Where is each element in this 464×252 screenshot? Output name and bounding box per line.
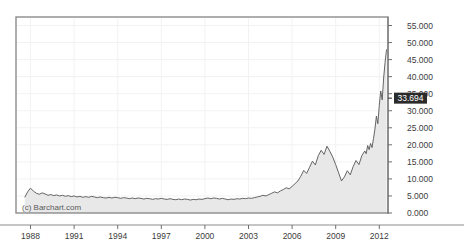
- y-axis-tick-label: 45.000: [407, 55, 433, 65]
- y-axis: 0.0005.00010.00015.00020.00025.00030.000…: [388, 17, 433, 218]
- y-axis-tick-label: 5.000: [407, 191, 429, 201]
- x-axis-tick-label: 1994: [108, 231, 127, 241]
- x-axis-tick-label: 2012: [370, 231, 389, 241]
- last-value-flag: 33.694: [388, 93, 427, 104]
- x-axis: 198819911994199720002003200620092012: [0, 225, 464, 241]
- y-axis-tick-label: 10.000: [407, 174, 433, 184]
- y-axis-tick-label: 25.000: [407, 123, 433, 133]
- y-axis-tick-label: 55.000: [407, 21, 433, 31]
- last-value-flag-label: 33.694: [398, 93, 424, 103]
- x-axis-tick-label: 1997: [152, 231, 171, 241]
- x-axis-tick-label: 1988: [21, 231, 40, 241]
- x-axis-tick-label: 2003: [239, 231, 258, 241]
- x-axis-tick-label: 2006: [283, 231, 302, 241]
- y-axis-tick-label: 20.000: [407, 140, 433, 150]
- x-axis-tick-label: 2000: [195, 231, 214, 241]
- price-area-fill: [25, 49, 387, 213]
- y-axis-tick-label: 30.000: [407, 106, 433, 116]
- y-axis-tick-label: 15.000: [407, 157, 433, 167]
- x-axis-tick-label: 2009: [326, 231, 345, 241]
- chart-container: 0.0005.00010.00015.00020.00025.00030.000…: [0, 0, 464, 252]
- price-chart: 0.0005.00010.00015.00020.00025.00030.000…: [0, 0, 464, 252]
- y-axis-tick-label: 0.000: [407, 208, 429, 218]
- watermark-label: (c) Barchart.com: [22, 203, 81, 212]
- x-axis-tick-label: 1991: [65, 231, 84, 241]
- y-axis-tick-label: 40.000: [407, 72, 433, 82]
- y-axis-tick-label: 50.000: [407, 38, 433, 48]
